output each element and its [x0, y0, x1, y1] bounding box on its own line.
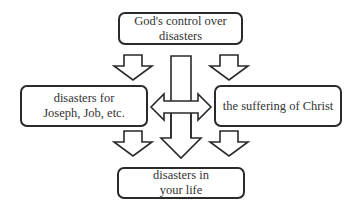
node-disasters-joseph-job: disasters for Joseph, Job, etc. [20, 85, 148, 127]
node-text-line: Joseph, Job, etc. [37, 106, 131, 121]
node-text-line: the suffering of Christ [217, 99, 340, 114]
node-text-line: disasters [128, 29, 233, 44]
arrow-right-to-bottom [210, 131, 248, 156]
arrow-left-to-bottom [114, 131, 152, 156]
node-suffering-of-christ: the suffering of Christ [214, 85, 342, 127]
node-text-line: God's control over [128, 14, 233, 29]
node-text-line: your life [147, 183, 215, 198]
node-text-line: disasters in [147, 168, 215, 183]
node-disasters-in-your-life: disasters in your life [117, 167, 245, 199]
arrow-top-to-right [210, 55, 248, 80]
node-text-line: disasters for [37, 91, 131, 106]
node-gods-control: God's control over disasters [118, 12, 243, 45]
arrow-top-to-left [114, 55, 152, 80]
